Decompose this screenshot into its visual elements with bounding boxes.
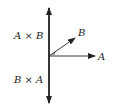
label-b-cross-a: B × A bbox=[14, 75, 43, 85]
label-vector-b: B bbox=[78, 28, 85, 38]
cross-product-diagram bbox=[0, 0, 114, 111]
label-vector-a: A bbox=[98, 52, 105, 62]
label-a-cross-b: A × B bbox=[14, 31, 43, 41]
